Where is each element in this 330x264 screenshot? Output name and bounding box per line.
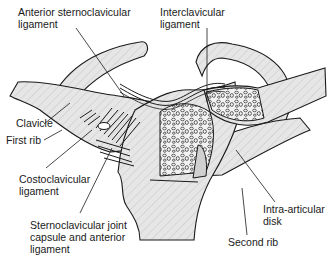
label-line: Clavicle [16, 117, 53, 129]
label-intra-articular-disk: Intra-articular disk [263, 203, 325, 227]
label-line: ligament [30, 243, 127, 255]
label-line: ligament [160, 18, 225, 30]
label-line: capsule and anterior [30, 231, 127, 243]
label-line: ligament [18, 18, 131, 30]
label-sternoclavicular-joint-capsule: Sternoclavicular joint capsule and anter… [30, 219, 127, 255]
label-costoclavicular-ligament: Costoclavicular ligament [19, 173, 90, 197]
label-line: First rib [6, 134, 41, 146]
label-clavicle: Clavicle [16, 117, 53, 129]
label-anterior-sternoclavicular-ligament: Anterior sternoclavicular ligament [18, 6, 131, 30]
label-interclavicular-ligament: Interclavicular ligament [160, 6, 225, 30]
label-first-rib: First rib [6, 134, 41, 146]
label-line: Sternoclavicular joint [30, 219, 127, 231]
label-line: Costoclavicular [19, 173, 90, 185]
label-line: Intra-articular [263, 203, 325, 215]
label-line: Interclavicular [160, 6, 225, 18]
label-line: disk [263, 215, 325, 227]
label-line: Anterior sternoclavicular [18, 6, 131, 18]
label-line: ligament [19, 185, 90, 197]
label-line: Second rib [228, 236, 278, 248]
label-second-rib: Second rib [228, 236, 278, 248]
